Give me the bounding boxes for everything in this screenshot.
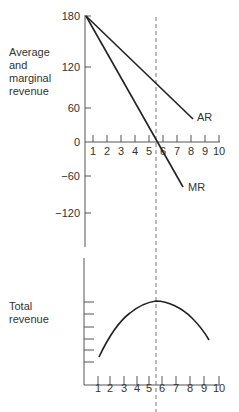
x-tick: 7 bbox=[174, 145, 180, 157]
chart-canvas: 180 120 60 0 −60 −120 1 2 3 4 5 6 7 8 bbox=[0, 0, 239, 412]
ar-line bbox=[86, 16, 193, 119]
x-tick: 9 bbox=[202, 145, 208, 157]
top-chart: 180 120 60 0 −60 −120 1 2 3 4 5 6 7 8 bbox=[55, 10, 225, 247]
x-tick: 6 bbox=[159, 382, 165, 394]
x-tick: 10 bbox=[213, 382, 225, 394]
x-tick: 3 bbox=[121, 382, 127, 394]
total-revenue-curve bbox=[99, 301, 209, 357]
y-tick-120: 120 bbox=[62, 61, 80, 73]
ar-label: AR bbox=[197, 111, 212, 123]
x-tick: 7 bbox=[173, 382, 179, 394]
mr-line bbox=[86, 16, 183, 187]
x-tick: 2 bbox=[104, 145, 110, 157]
x-tick: 9 bbox=[201, 382, 207, 394]
y-tick-neg120: −120 bbox=[55, 207, 80, 219]
y-tick-0: 0 bbox=[74, 136, 80, 148]
x-tick: 5 bbox=[146, 145, 152, 157]
mr-label: MR bbox=[188, 181, 205, 193]
x-tick: 4 bbox=[132, 145, 138, 157]
x-tick: 5 bbox=[146, 382, 152, 394]
y-tick-60: 60 bbox=[68, 102, 80, 114]
x-tick: 1 bbox=[90, 145, 96, 157]
x-tick: 10 bbox=[213, 145, 225, 157]
x-tick: 8 bbox=[187, 382, 193, 394]
x-tick: 8 bbox=[188, 145, 194, 157]
x-tick: 4 bbox=[134, 382, 140, 394]
x-tick: 3 bbox=[118, 145, 124, 157]
y-tick-neg60: −60 bbox=[61, 170, 80, 182]
bottom-chart: 1 2 3 4 5 6 7 8 9 10 bbox=[84, 258, 225, 394]
y-tick-180: 180 bbox=[62, 10, 80, 22]
x-tick: 1 bbox=[95, 382, 101, 394]
x-tick: 2 bbox=[107, 382, 113, 394]
